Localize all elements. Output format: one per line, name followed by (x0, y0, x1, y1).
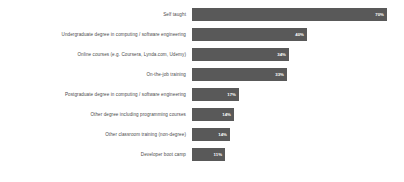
bar-chart: Self taught 70% Undergraduate degree in … (0, 0, 404, 182)
bar-value-label: 17% (227, 92, 236, 97)
bar[interactable]: 14% (192, 108, 234, 121)
bar-value-label: 70% (375, 12, 384, 17)
bar[interactable]: 14% (192, 128, 230, 141)
bar-track: 17% (192, 88, 398, 101)
bar-value-label: 11% (213, 152, 222, 157)
bar-track: 34% (192, 48, 398, 61)
bar[interactable]: 40% (192, 28, 307, 41)
chart-row: Undergraduate degree in computing / soft… (6, 28, 398, 41)
chart-rows: Self taught 70% Undergraduate degree in … (6, 8, 398, 172)
category-label: Postgraduate degree in computing / softw… (6, 92, 192, 98)
bar[interactable]: 11% (192, 148, 225, 161)
category-label: Undergraduate degree in computing / soft… (6, 32, 192, 38)
chart-row: Self taught 70% (6, 8, 398, 21)
chart-row: Other classroom training (non-degree) 14… (6, 128, 398, 141)
bar-track: 14% (192, 128, 398, 141)
bar-track: 11% (192, 148, 398, 161)
chart-row: Online courses (e.g. Coursera, Lynda.com… (6, 48, 398, 61)
bar-track: 70% (192, 8, 398, 21)
category-label: Self taught (6, 12, 192, 18)
bar-value-label: 14% (218, 132, 227, 137)
bar-value-label: 33% (275, 72, 284, 77)
chart-row: On-the-job training 33% (6, 68, 398, 81)
bar[interactable]: 17% (192, 88, 239, 101)
bar[interactable]: 33% (192, 68, 287, 81)
chart-row: Developer boot camp 11% (6, 148, 398, 161)
bar-value-label: 40% (295, 32, 304, 37)
category-label: Other degree including programming cours… (6, 112, 192, 118)
chart-row: Other degree including programming cours… (6, 108, 398, 121)
bar-track: 33% (192, 68, 398, 81)
bar-track: 40% (192, 28, 398, 41)
bar[interactable]: 34% (192, 48, 289, 61)
category-label: Other classroom training (non-degree) (6, 132, 192, 138)
category-label: On-the-job training (6, 72, 192, 78)
bar-value-label: 14% (222, 112, 231, 117)
bar[interactable]: 70% (192, 8, 387, 21)
chart-row: Postgraduate degree in computing / softw… (6, 88, 398, 101)
category-label: Online courses (e.g. Coursera, Lynda.com… (6, 52, 192, 58)
category-label: Developer boot camp (6, 152, 192, 158)
bar-value-label: 34% (277, 52, 286, 57)
bar-track: 14% (192, 108, 398, 121)
